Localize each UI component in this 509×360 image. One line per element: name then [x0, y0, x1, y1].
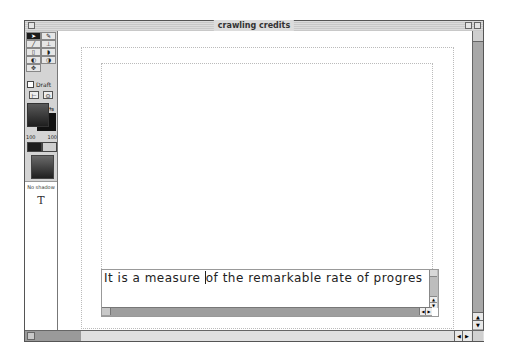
- window-title: crawling credits: [214, 20, 294, 31]
- close-box[interactable]: [28, 22, 35, 29]
- text-insert-icon: ⊥: [46, 40, 51, 47]
- line-tool[interactable]: ╱: [26, 40, 41, 48]
- opacity-left[interactable]: 100: [26, 134, 36, 140]
- document-window: crawling credits ➤ ✎ ╱ ⊥ ▯ ◗ ◐ ◑ ✥ Draft…: [24, 20, 484, 342]
- arrow-tool[interactable]: ➤: [26, 32, 41, 40]
- resize-grow-box[interactable]: [472, 330, 483, 341]
- ellipse-icon: ◑: [46, 56, 51, 63]
- arrow-right-icon: ▶: [427, 309, 430, 314]
- canvas[interactable]: It is a measure of the remarkable rate o…: [58, 31, 473, 331]
- arrow-down-icon: ▼: [432, 303, 435, 308]
- ellipse-tool[interactable]: ◑: [41, 56, 56, 64]
- shadow-label[interactable]: No shadow: [25, 184, 57, 190]
- rounded-rect-tool[interactable]: ◗: [41, 48, 56, 56]
- checkbox-box[interactable]: [27, 81, 34, 88]
- swap-colors-icon[interactable]: ⇆: [49, 105, 54, 112]
- arrow-down-icon: ▼: [476, 322, 480, 328]
- line-icon: ╱: [32, 40, 36, 47]
- window-scroll-down-button[interactable]: ▼: [473, 320, 483, 329]
- window-hscroll-thumb[interactable]: [27, 332, 35, 340]
- rect-icon: ▯: [32, 48, 35, 55]
- tool-palette: ➤ ✎ ╱ ⊥ ▯ ◗ ◐ ◑ ✥ Draft ⊢ ⊙ ⇆ 100 100 No…: [25, 31, 58, 331]
- opacity-right[interactable]: 100: [47, 134, 57, 140]
- window-scroll-right-button[interactable]: ▶: [462, 331, 471, 341]
- rounded-rect-icon: ◗: [47, 48, 50, 55]
- window-vscroll-thumb[interactable]: [473, 31, 483, 42]
- align-center-button[interactable]: ⊙: [43, 91, 53, 99]
- gradient-preview[interactable]: [31, 155, 54, 179]
- move-tool[interactable]: ✥: [26, 64, 41, 72]
- rect-tool[interactable]: ▯: [26, 48, 41, 56]
- move-icon: ✥: [31, 64, 36, 71]
- arrow-right-icon: ▶: [465, 333, 469, 339]
- oval-tool[interactable]: ◐: [26, 56, 41, 64]
- align-left-button[interactable]: ⊢: [29, 91, 39, 99]
- foreground-color-swatch[interactable]: [27, 103, 49, 127]
- textbox-vertical-scrollbar[interactable]: ▲ ▼: [429, 270, 438, 308]
- window-horizontal-scrollbar[interactable]: ◀ ▶: [25, 330, 484, 341]
- text-box[interactable]: It is a measure of the remarkable rate o…: [101, 269, 439, 317]
- oval-icon: ◐: [31, 56, 36, 63]
- zoom-box[interactable]: [465, 22, 472, 29]
- window-vertical-scrollbar[interactable]: ▲ ▼: [472, 31, 483, 331]
- textbox-hscroll-thumb[interactable]: [102, 308, 111, 315]
- fill-swatch-light[interactable]: [42, 142, 57, 152]
- collapse-box[interactable]: [474, 22, 481, 29]
- opacity-row: 100 100: [26, 134, 57, 140]
- align-center-icon: ⊙: [45, 92, 50, 99]
- textbox-horizontal-scrollbar[interactable]: ◀ ▶: [102, 307, 432, 316]
- align-left-icon: ⊢: [31, 92, 36, 99]
- arrow-icon: ➤: [31, 32, 36, 39]
- text-insert-tool[interactable]: ⊥: [41, 40, 56, 48]
- textbox-scroll-right-button[interactable]: ▶: [425, 308, 432, 315]
- fill-swatch-dark[interactable]: [27, 142, 42, 152]
- text-tool-icon[interactable]: T: [25, 194, 57, 207]
- text-after-caret: of the remarkable rate of progres: [206, 271, 423, 285]
- eyedropper-icon: ✎: [46, 32, 51, 39]
- draft-label: Draft: [36, 81, 51, 88]
- arrow-left-icon: ◀: [457, 333, 461, 339]
- eyedropper-tool[interactable]: ✎: [41, 32, 56, 40]
- textbox-vscroll-thumb[interactable]: [430, 270, 437, 277]
- text-before-caret: It is a measure: [104, 271, 205, 285]
- text-content[interactable]: It is a measure of the remarkable rate o…: [104, 271, 428, 285]
- shadow-panel: No shadow T: [25, 181, 57, 332]
- draft-checkbox[interactable]: Draft: [27, 81, 51, 88]
